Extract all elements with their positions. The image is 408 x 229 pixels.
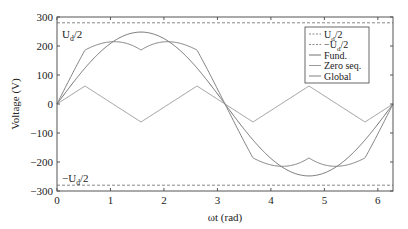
legend-label: Zero seq. bbox=[324, 60, 361, 71]
x-tick-label: 2 bbox=[161, 194, 167, 206]
y-tick-label: −300 bbox=[30, 185, 53, 197]
legend: Ud/2−Ud/2Fund.Zero seq.Global bbox=[305, 27, 369, 83]
x-tick-label: 5 bbox=[322, 194, 328, 206]
y-tick-label: 0 bbox=[48, 98, 54, 110]
y-axis-label: Voltage (V) bbox=[9, 78, 22, 130]
x-tick-label: 6 bbox=[375, 194, 381, 206]
y-tick-label: −200 bbox=[30, 156, 53, 168]
x-tick-label: 3 bbox=[215, 194, 221, 206]
legend-label: Global bbox=[324, 71, 351, 82]
annotation-ud-half: Ud/2 bbox=[62, 28, 82, 43]
y-tick-label: 100 bbox=[37, 69, 54, 81]
x-tick-label: 4 bbox=[268, 194, 274, 206]
x-axis-label: ωt (rad) bbox=[208, 211, 243, 224]
y-tick-label: 300 bbox=[37, 11, 54, 23]
legend-label: Fund. bbox=[324, 50, 347, 61]
chart: 0123456−300−200−1000100200300ωt (rad)Vol… bbox=[0, 0, 408, 229]
x-tick-label: 1 bbox=[108, 194, 114, 206]
y-tick-label: 200 bbox=[37, 40, 54, 52]
x-tick-label: 0 bbox=[54, 194, 60, 206]
y-tick-label: −100 bbox=[30, 127, 53, 139]
